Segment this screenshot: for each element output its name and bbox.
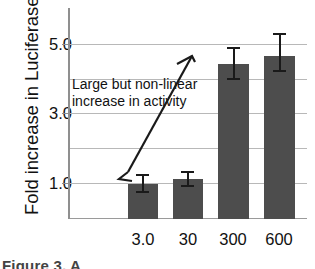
error-cap-lower-30 xyxy=(181,185,194,187)
error-bar-300 xyxy=(233,47,235,79)
x-tick-label-3: 600 xyxy=(250,230,308,249)
error-cap-lower-300 xyxy=(227,78,240,80)
error-bar-3.0 xyxy=(142,174,144,192)
bar-600 xyxy=(264,56,295,219)
annotation-line-2: increase in activity xyxy=(72,93,222,110)
error-cap-lower-3.0 xyxy=(136,191,149,193)
y-tick-mark-1 xyxy=(62,183,69,184)
error-bar-600 xyxy=(279,33,281,71)
bar-300 xyxy=(218,64,249,219)
error-cap-upper-600 xyxy=(273,33,286,35)
figure-caption: Figure 3. A xyxy=(2,257,202,269)
gridline-5 xyxy=(68,44,307,45)
error-bar-30 xyxy=(187,171,189,186)
error-cap-upper-30 xyxy=(181,171,194,173)
y-tick-mark-5 xyxy=(62,44,69,45)
annotation-text: Large but non-linear increase in activit… xyxy=(72,76,222,110)
error-cap-lower-600 xyxy=(273,70,286,72)
annotation-line-1: Large but non-linear xyxy=(72,76,222,93)
plot-area: 3.0 30 300 600 xyxy=(68,8,307,219)
figure-bar-chart: Fold increase in Luciferase 5.0 3.0 1.0 xyxy=(0,0,315,269)
error-cap-upper-3.0 xyxy=(136,174,149,176)
y-tick-mark-3 xyxy=(62,113,69,114)
error-cap-upper-300 xyxy=(227,47,240,49)
